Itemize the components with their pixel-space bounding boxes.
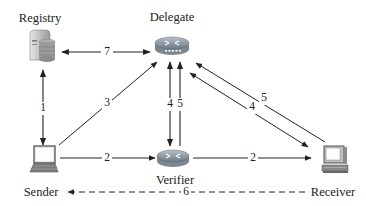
edge-5-vertical: 5 <box>175 62 185 146</box>
verifier-label: Verifier <box>156 174 194 187</box>
registry-label: Registry <box>19 12 61 25</box>
edge-2-verifier-receiver: 2 <box>193 151 311 165</box>
edge-5-receiver-delegate: 5 <box>196 63 325 142</box>
edge-label-1: 1 <box>40 101 46 113</box>
desktop-computer-icon <box>322 146 348 173</box>
edge-label-5-diagonal: 5 <box>261 91 267 103</box>
edge-label-2b: 2 <box>250 151 256 163</box>
sender-label: Sender <box>24 186 59 199</box>
delegate-label: Delegate <box>150 11 194 24</box>
edge-1: 1 <box>38 70 48 145</box>
edge-label-2a: 2 <box>104 151 110 163</box>
edge-label-4-vertical: 4 <box>167 97 173 109</box>
edge-4-delegate-receiver: 4 <box>190 73 308 147</box>
router-icon-delegate <box>155 37 189 55</box>
receiver-label: Receiver <box>311 186 355 199</box>
edge-2-sender-verifier: 2 <box>60 151 155 165</box>
edge-7: 7 <box>62 45 150 59</box>
edge-label-4-diagonal: 4 <box>249 100 255 112</box>
edge-label-5-vertical: 5 <box>177 97 183 109</box>
router-icon-verifier <box>157 150 189 167</box>
edge-label-3: 3 <box>104 96 110 108</box>
laptop-icon <box>30 146 58 172</box>
diagram-canvas: 7 1 3 4 5 2 2 <box>0 0 366 206</box>
server-database-icon <box>30 30 55 62</box>
edge-label-7: 7 <box>104 45 110 57</box>
edge-3: 3 <box>59 62 157 145</box>
edge-4-vertical: 4 <box>165 62 175 146</box>
